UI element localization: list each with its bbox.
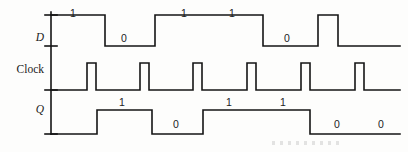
- waveform-canvas: [0, 0, 408, 152]
- waveform-q: [51, 110, 400, 134]
- bit-label-d-0: 1: [66, 7, 80, 19]
- bit-label-d-2: 1: [177, 7, 191, 19]
- bit-label-d-4: 0: [280, 32, 294, 44]
- bit-label-q-0: 1: [115, 96, 129, 108]
- waveform-d: [51, 15, 400, 46]
- scan-artifact: [272, 141, 342, 145]
- bit-label-q-1: 0: [169, 118, 183, 130]
- bit-label-d-1: 0: [117, 32, 131, 44]
- bit-label-q-4: 0: [330, 118, 344, 130]
- bit-label-q-3: 1: [276, 96, 290, 108]
- bit-label-d-3: 1: [225, 7, 239, 19]
- timing-diagram-figure: D Clock Q 10110101100: [0, 0, 408, 152]
- waveform-clock: [51, 63, 400, 90]
- signal-label-clock: Clock: [4, 63, 44, 75]
- signal-label-q: Q: [24, 103, 44, 115]
- signal-label-d: D: [24, 31, 44, 43]
- bit-label-q-5: 0: [374, 118, 388, 130]
- bit-label-q-2: 1: [222, 96, 236, 108]
